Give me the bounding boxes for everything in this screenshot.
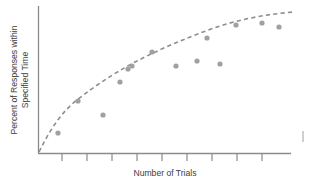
y-axis-label: Percent of Responses within Specified Ti… — [9, 25, 30, 134]
y-axis-label-line-1: Percent of Responses within — [9, 25, 19, 134]
data-point — [129, 63, 134, 68]
data-point — [173, 63, 178, 68]
data-point — [259, 20, 264, 25]
data-point — [217, 61, 222, 66]
trend-curve — [39, 12, 294, 152]
data-point — [276, 24, 281, 29]
x-axis-ticks — [62, 153, 262, 161]
page-edge-artifact — [302, 131, 304, 142]
data-point — [117, 79, 122, 84]
x-axis-label: Number of Trials — [133, 168, 196, 178]
data-point — [55, 130, 60, 135]
scatter-markers — [55, 20, 281, 135]
y-axis-label-line-2: Specified Time — [20, 52, 30, 109]
data-point — [194, 58, 199, 63]
scatter-plot-canvas: Percent of Responses within Specified Ti… — [0, 0, 309, 186]
chart-figure: Percent of Responses within Specified Ti… — [0, 0, 309, 186]
data-point — [100, 112, 105, 117]
data-point — [75, 98, 80, 103]
data-point — [233, 22, 238, 27]
data-point — [204, 35, 209, 40]
data-point — [149, 49, 154, 54]
